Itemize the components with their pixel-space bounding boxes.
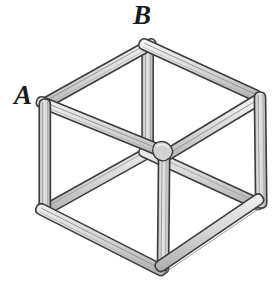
edge-bottom-front-left	[36, 204, 167, 276]
center-junction	[153, 142, 173, 161]
vertex-label-a: A	[14, 82, 32, 109]
cube-drawing	[0, 0, 280, 285]
edge-bottom-front-right	[155, 194, 264, 274]
edge-top-back-left	[42, 39, 156, 108]
cube-figure: A B	[0, 0, 280, 285]
edge-top-back-right	[139, 39, 262, 102]
edge-bottom-back-left	[42, 146, 156, 215]
edge-right-vertical	[254, 92, 266, 208]
vertex-label-b: B	[133, 2, 151, 29]
edge-left-vertical	[39, 99, 50, 214]
